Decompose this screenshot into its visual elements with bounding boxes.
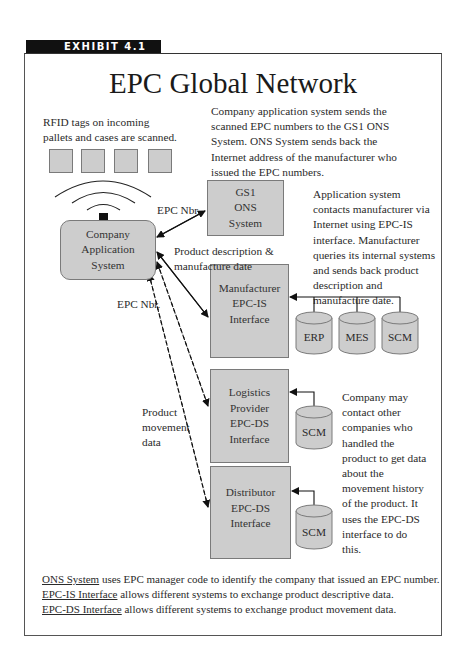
node-label: Interface [226, 516, 276, 532]
node-label: Logistics [229, 385, 270, 401]
footnote-epc-ds: EPC-DS Interface allows different system… [42, 602, 396, 617]
node-label: Interface [219, 312, 280, 328]
edge-label-line: manufacture date [174, 259, 274, 274]
node-label: System [229, 216, 262, 232]
footnote-text: uses EPC manager code to identify the co… [99, 573, 439, 585]
node-label: EPC-IS [219, 296, 280, 312]
node-label: Distributor [226, 485, 276, 501]
wireless-signal-icon [55, 181, 151, 210]
distributor-epc-ds-node: Distributor EPC-DS Interface [210, 466, 291, 559]
edge-label-line: Product [142, 405, 190, 420]
gs1-ons-system-node: GS1 ONS System [207, 180, 284, 236]
edge-label-epc-nbr-left: EPC Nbr. [117, 297, 160, 312]
footnote-epc-is: EPC-IS Interface allows different system… [42, 587, 394, 602]
edge-label-product-movement: Product movement data [142, 405, 190, 451]
node-label: Interface [229, 432, 270, 448]
edge-label-epc-nbr-top: EPC Nbr. [157, 203, 200, 218]
footnote-term: EPC-DS Interface [42, 603, 122, 615]
node-label: EPC-DS [226, 501, 276, 517]
company-application-system-node: Company Application System [60, 220, 156, 280]
edge-label-line: movement [142, 420, 190, 435]
database-label: MES [339, 330, 375, 345]
database-label: SCM [296, 425, 332, 440]
node-label: Application [81, 242, 134, 258]
footnote-term: EPC-IS Interface [42, 588, 117, 600]
node-label: Company [81, 227, 134, 243]
node-label: Provider [229, 401, 270, 417]
node-label: EPC-DS [229, 416, 270, 432]
database-label: ERP [296, 330, 332, 345]
node-label: ONS [229, 200, 262, 216]
node-label: System [81, 258, 134, 274]
database-label: SCM [382, 330, 418, 345]
edge-label-line: Product description & [174, 244, 274, 259]
footnote-text: allows different systems to exchange pro… [122, 603, 396, 615]
footnote-text: allows different systems to exchange pro… [117, 588, 393, 600]
node-label: Manufacturer [219, 281, 280, 297]
edge-label-line: data [142, 435, 190, 450]
manufacturer-epc-is-node: Manufacturer EPC-IS Interface [210, 264, 289, 358]
footnote-term: ONS System [42, 573, 99, 585]
edge-label-product-description: Product description & manufacture date [174, 244, 274, 274]
footnote-ons: ONS System uses EPC manager code to iden… [42, 572, 439, 587]
logistics-provider-epc-ds-node: Logistics Provider EPC-DS Interface [210, 369, 289, 463]
database-label: SCM [296, 525, 332, 540]
node-label: GS1 [229, 185, 262, 201]
